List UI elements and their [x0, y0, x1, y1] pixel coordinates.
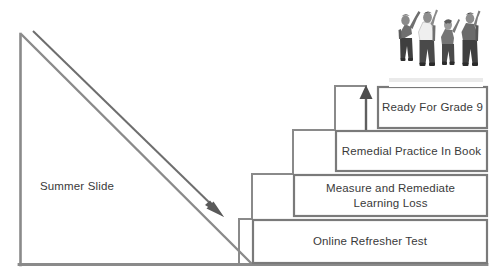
celebrating-students-photo [389, 8, 483, 87]
step-box-measure-and-remediate [294, 175, 487, 216]
step-box-ready-for-grade-9 [378, 87, 487, 128]
summer-slide-label: Summer Slide [40, 180, 114, 192]
diagram-canvas: Summer Slide Ready For Grade 9 Remedial … [0, 0, 501, 279]
step-box-online-refresher-test [253, 220, 487, 263]
diagram-graphics [0, 0, 501, 279]
summer-slide-slope [21, 34, 252, 264]
step-box-remedial-practice [336, 131, 487, 171]
